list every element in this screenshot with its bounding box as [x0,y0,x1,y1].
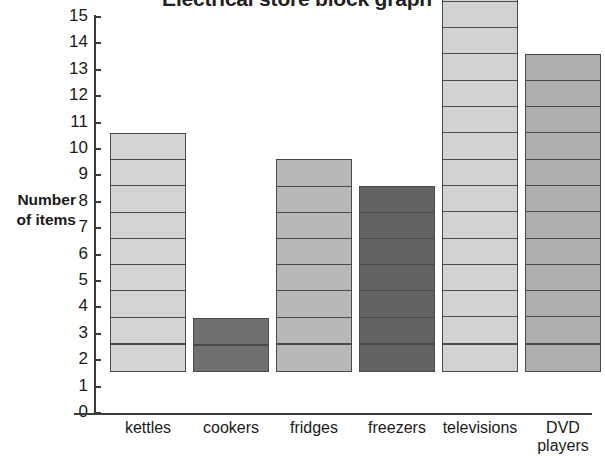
bar-block [110,290,186,318]
bar-block [525,80,601,108]
bar-block [193,345,269,372]
x-axis-label-line1: freezers [355,419,439,437]
bar-block [359,290,435,318]
bar-column[interactable] [276,161,352,372]
bar-block [525,344,601,372]
x-axis-label-line2: players [521,437,605,455]
x-axis-label: DVDplayers [521,419,605,455]
bar-block [525,290,601,318]
bar-block [276,290,352,318]
x-axis-label: kettles [106,419,190,437]
bar-block [525,185,601,213]
bar-column[interactable] [193,319,269,372]
bar-column[interactable] [110,134,186,372]
bar-block [442,290,518,318]
bar-block [442,344,518,372]
bar-block [525,238,601,266]
bar-block [442,80,518,108]
bar-block [110,133,186,161]
bar-block [525,132,601,160]
bar-block [193,318,269,345]
bar-column[interactable] [525,55,601,372]
bar-block [359,317,435,345]
bar-block [525,316,601,344]
bar-block [276,186,352,214]
bar-block [110,238,186,266]
x-axis-label-line1: televisions [438,419,522,437]
bar-block [442,53,518,81]
bar-block [359,238,435,266]
bar-block [359,186,435,214]
bar-block [442,316,518,344]
bar-block [276,344,352,372]
bar-block [442,211,518,239]
bar-block [276,238,352,266]
bar-block [442,159,518,187]
bar-block [359,344,435,372]
x-axis-label-line1: fridges [272,419,356,437]
bar-block [276,212,352,240]
bar-block [110,185,186,213]
bar-block [525,54,601,82]
bar-block [276,317,352,345]
bar-block [110,344,186,372]
bar-block [442,185,518,213]
bar-column[interactable] [442,0,518,372]
x-axis-label: freezers [355,419,439,437]
x-axis-label-line1: cookers [189,419,273,437]
bar-block [525,211,601,239]
bar-block [442,264,518,292]
x-axis-label: televisions [438,419,522,437]
bar-block [442,1,518,29]
bar-block [110,212,186,240]
bar-block [442,106,518,134]
bar-block [442,27,518,55]
x-axis-label-line1: kettles [106,419,190,437]
x-axis-label-line1: DVD [521,419,605,437]
plot-area [0,0,594,415]
bar-block [525,264,601,292]
bar-block [110,264,186,292]
bar-column[interactable] [359,187,435,372]
bar-block [110,317,186,345]
bar-block [525,106,601,134]
x-axis-label: fridges [272,419,356,437]
bar-block [525,159,601,187]
bar-block [276,264,352,292]
bar-block [442,238,518,266]
bar-block [276,159,352,187]
bar-block [110,159,186,187]
x-axis-label: cookers [189,419,273,437]
bar-block [359,212,435,240]
bar-block [359,264,435,292]
bar-block [442,132,518,160]
